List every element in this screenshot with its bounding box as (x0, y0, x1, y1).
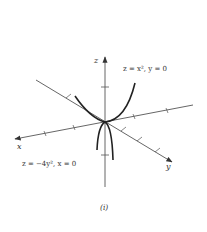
equation-upward-parabola: z = x², y = 0 (123, 66, 167, 73)
equation-downward-parabola: z = −4y², x = 0 (22, 161, 76, 168)
3d-axes-figure (0, 0, 207, 232)
x-axis-label: x (17, 143, 22, 151)
y-axis-label: y (166, 163, 171, 171)
z-axis-label: z (94, 57, 98, 65)
figure-caption: (i) (100, 204, 108, 212)
